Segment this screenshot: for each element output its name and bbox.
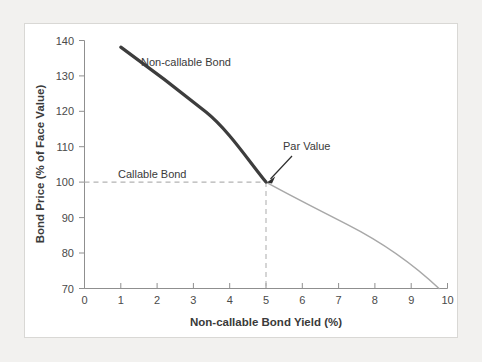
axis-titles-group: Non-callable Bond Yield (%) Bond Price (… <box>34 85 342 328</box>
par-value-arrow-shaft <box>271 156 293 179</box>
y-tick-label-120: 120 <box>56 105 74 117</box>
x-tick-label-0: 0 <box>81 294 87 306</box>
y-tick-label-130: 130 <box>56 70 74 82</box>
x-axis-title: Non-callable Bond Yield (%) <box>190 316 342 328</box>
x-tick-label-2: 2 <box>154 294 160 306</box>
y-tick-label-70: 70 <box>62 283 74 295</box>
x-tick-label-3: 3 <box>190 294 196 306</box>
x-tick-label-4: 4 <box>227 294 233 306</box>
figure-root: 140 130 120 110 100 90 80 70 0 1 <box>0 0 482 362</box>
par-value-label: Par Value <box>283 140 331 152</box>
x-tick-label-9: 9 <box>408 294 414 306</box>
y-tick-label-90: 90 <box>62 212 74 224</box>
annotations-group: Non-callable Bond Callable Bond Par Valu… <box>118 56 331 183</box>
y-axis-title: Bond Price (% of Face Value) <box>34 85 46 244</box>
y-tick-labels: 140 130 120 110 100 90 80 70 <box>56 35 74 295</box>
y-tick-label-80: 80 <box>62 247 74 259</box>
x-tick-label-1: 1 <box>118 294 124 306</box>
x-tick-label-8: 8 <box>372 294 378 306</box>
non-callable-bond-label: Non-callable Bond <box>141 56 231 68</box>
par-value-arrow <box>267 156 292 183</box>
bond-price-yield-chart: 140 130 120 110 100 90 80 70 0 1 <box>0 0 482 362</box>
y-tick-label-100: 100 <box>56 176 74 188</box>
reference-lines-group <box>85 182 267 288</box>
x-tick-labels: 0 1 2 3 4 5 6 7 8 9 10 <box>81 294 453 306</box>
par-value-arrow-head <box>267 176 275 183</box>
x-tick-label-6: 6 <box>299 294 305 306</box>
callable-bond-label: Callable Bond <box>118 168 187 180</box>
non-callable-bond-curve-light <box>266 182 439 288</box>
y-tick-marks <box>79 41 85 289</box>
x-tick-label-10: 10 <box>441 294 453 306</box>
y-tick-label-140: 140 <box>56 35 74 47</box>
y-tick-label-110: 110 <box>56 141 74 153</box>
x-tick-label-7: 7 <box>336 294 342 306</box>
x-tick-label-5: 5 <box>263 294 269 306</box>
